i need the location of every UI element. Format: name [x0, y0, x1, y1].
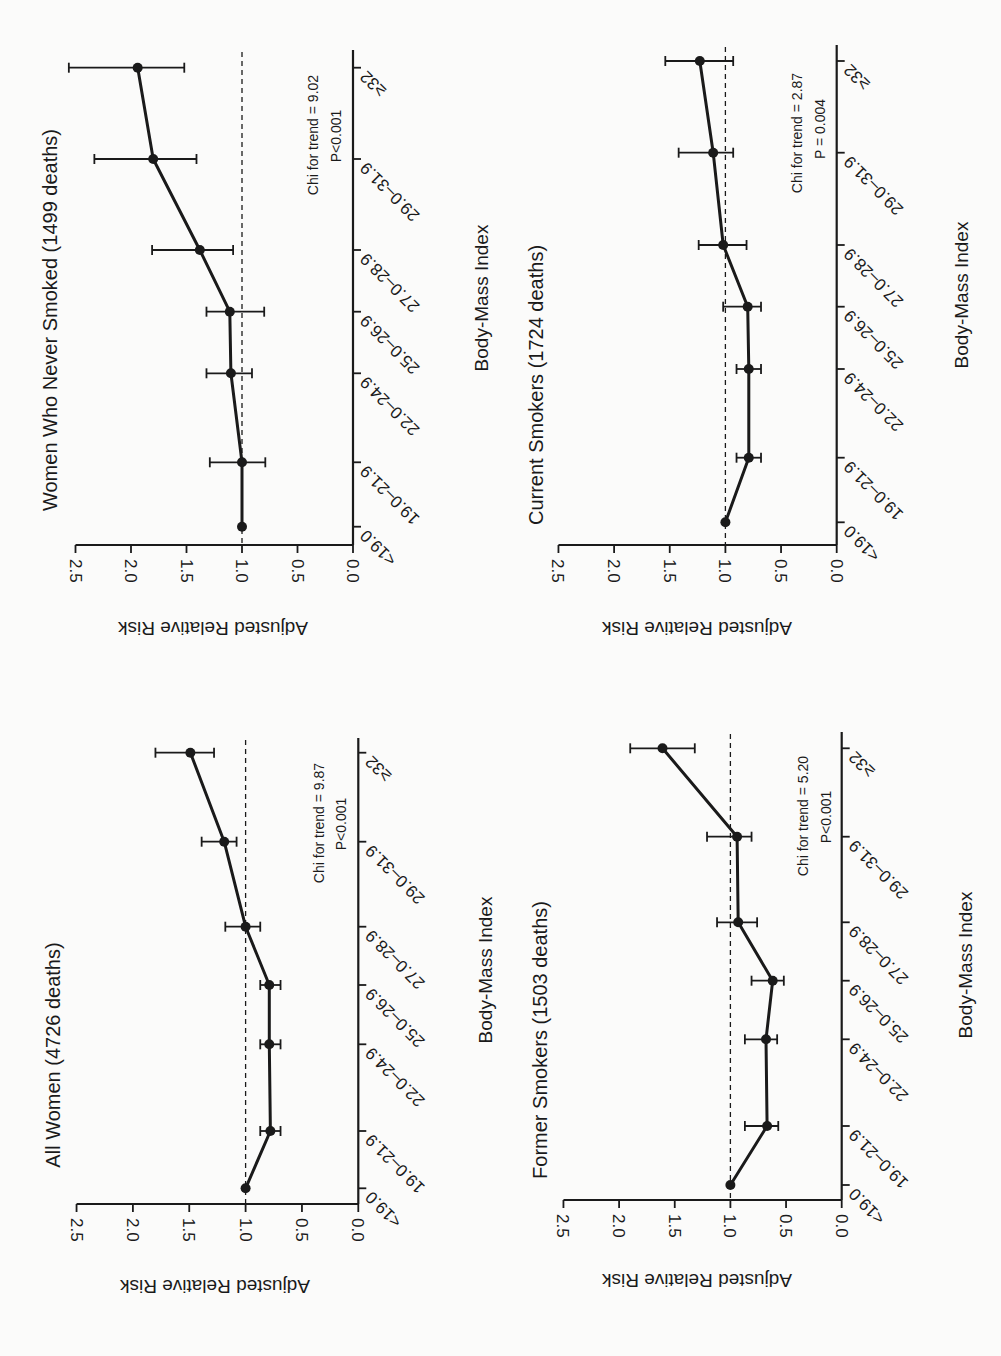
y-tick-label: 0.5 [292, 1218, 311, 1242]
x-tick-label: 22.0–24.9 [845, 1038, 912, 1105]
error-bar [202, 837, 237, 847]
x-tick-label: 25.0–26.9 [840, 306, 907, 373]
x-tick-label: ≥32 [362, 752, 395, 785]
error-bar [745, 1121, 778, 1131]
y-tick-label: 0.5 [771, 559, 790, 583]
panel-title: All Women (4726 deaths) [42, 942, 64, 1167]
data-point [225, 307, 235, 317]
error-bar [752, 976, 784, 986]
y-tick-label: 2.5 [553, 1214, 572, 1238]
x-tick-label: ≥32 [840, 60, 873, 93]
figure-rotated: 0.00.51.01.52.02.5Adjusted Relative Risk… [0, 0, 1001, 1356]
panel-title: Current Smokers (1724 deaths) [525, 245, 547, 525]
panel-women-who-never-smoked: 0.00.51.01.52.02.5Adjusted Relative Risk… [39, 50, 492, 639]
panel-title: Women Who Never Smoked (1499 deaths) [39, 129, 61, 511]
data-point [761, 1034, 771, 1044]
y-tick-label: 1.0 [715, 559, 734, 583]
data-point [744, 453, 754, 463]
panel-current-smokers: 0.00.51.01.52.02.5Adjusted Relative Risk… [525, 45, 972, 639]
x-tick-label: 19.0–21.9 [840, 457, 907, 524]
data-point [265, 1126, 275, 1136]
y-tick-label: 2.5 [66, 559, 85, 583]
y-tick-label: 2.0 [604, 559, 623, 583]
y-tick-label: 1.5 [660, 559, 679, 583]
y-tick-label: 1.5 [179, 1218, 198, 1242]
y-axis-title: Adjusted Relative Risk [119, 1276, 310, 1297]
x-tick-label: 29.0–31.9 [362, 841, 429, 908]
y-tick-label: 0.5 [288, 559, 307, 583]
data-point [226, 368, 236, 378]
x-tick-label: ≥32 [356, 67, 389, 100]
chi-trend-annotation: Chi for trend = 2.87 [789, 73, 805, 193]
y-tick-label: 2.5 [548, 559, 567, 583]
data-point [237, 522, 247, 532]
data-point [133, 63, 143, 73]
y-tick-label: 0.0 [827, 559, 846, 583]
error-bar [745, 1034, 777, 1044]
data-point [708, 148, 718, 158]
y-tick-label: 1.0 [232, 559, 251, 583]
p-value-annotation: P<0.001 [328, 110, 344, 163]
x-tick-label: 19.0–21.9 [362, 1130, 429, 1197]
data-point [744, 364, 754, 374]
data-line [138, 68, 242, 527]
data-point [185, 748, 195, 758]
error-bar [94, 154, 196, 164]
x-tick-label: ≥32 [845, 747, 878, 780]
p-value-annotation: P = 0.004 [812, 99, 828, 159]
error-bar [69, 63, 184, 73]
x-tick-label: 22.0–24.9 [840, 368, 907, 435]
panel-former-smokers: 0.00.51.01.52.02.5Adjusted Relative Risk… [529, 732, 976, 1291]
data-point [219, 837, 229, 847]
data-point [725, 1180, 735, 1190]
p-value-annotation: P<0.001 [818, 791, 834, 844]
data-point [720, 517, 730, 527]
error-bar [152, 245, 233, 255]
x-tick-label: 27.0–28.9 [845, 921, 912, 988]
error-bar [206, 307, 264, 317]
x-tick-label: 25.0–26.9 [845, 980, 912, 1047]
data-line [700, 61, 749, 522]
data-point [768, 976, 778, 986]
p-value-annotation: P<0.001 [333, 798, 349, 851]
chart-canvas: 0.00.51.01.52.02.5Adjusted Relative Risk… [0, 0, 1001, 1356]
y-tick-label: 1.5 [177, 559, 196, 583]
panel-all-women: 0.00.51.01.52.02.5Adjusted Relative Risk… [42, 738, 496, 1297]
x-tick-label: 25.0–26.9 [362, 984, 429, 1051]
y-tick-label: 1.5 [665, 1214, 684, 1238]
y-axis-title: Adjusted Relative Risk [601, 1270, 792, 1291]
y-axis-title: Adjusted Relative Risk [117, 618, 308, 639]
chi-trend-annotation: Chi for trend = 9.02 [305, 75, 321, 195]
y-tick-label: 1.0 [720, 1214, 739, 1238]
error-bar [723, 302, 761, 312]
x-tick-label: 19.0–21.9 [845, 1125, 912, 1192]
error-bar [155, 748, 214, 758]
x-tick-label: 27.0–28.9 [362, 926, 429, 993]
panel-title: Former Smokers (1503 deaths) [529, 901, 551, 1179]
y-tick-label: 0.0 [832, 1214, 851, 1238]
data-point [743, 302, 753, 312]
data-point [264, 980, 274, 990]
data-point [762, 1121, 772, 1131]
data-line [663, 748, 773, 1185]
data-line [190, 753, 270, 1189]
data-point [658, 743, 668, 753]
data-point [241, 922, 251, 932]
y-tick-label: 0.5 [776, 1214, 795, 1238]
x-tick-label: 22.0–24.9 [356, 372, 423, 439]
y-tick-label: 0.0 [348, 1218, 367, 1242]
x-tick-label: 29.0–31.9 [356, 158, 423, 225]
x-axis-title: Body-Mass Index [471, 224, 492, 371]
data-point [718, 240, 728, 250]
y-axis-title: Adjusted Relative Risk [601, 618, 792, 639]
x-tick-label: 27.0–28.9 [840, 244, 907, 311]
data-point [237, 457, 247, 467]
x-tick-label: 19.0–21.9 [356, 461, 423, 528]
x-tick-label: 29.0–31.9 [840, 152, 907, 219]
x-tick-label: 22.0–24.9 [362, 1043, 429, 1110]
chi-trend-annotation: Chi for trend = 5.20 [795, 756, 811, 876]
data-point [195, 245, 205, 255]
x-tick-label: 27.0–28.9 [356, 249, 423, 316]
y-tick-label: 1.0 [236, 1218, 255, 1242]
y-tick-label: 2.0 [609, 1214, 628, 1238]
